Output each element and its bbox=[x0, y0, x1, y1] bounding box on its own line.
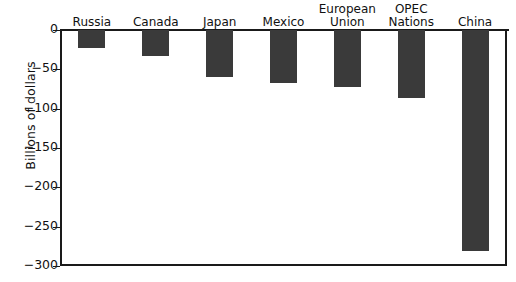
bar bbox=[142, 30, 169, 56]
bar bbox=[78, 30, 105, 48]
bars-layer bbox=[0, 0, 516, 282]
category-label: China bbox=[430, 16, 516, 29]
bar bbox=[334, 30, 361, 87]
bar bbox=[462, 30, 489, 251]
bar bbox=[270, 30, 297, 83]
bar-chart: Billions of dollars 0−50−100−150−200−250… bbox=[0, 0, 516, 282]
category-labels: RussiaCanadaJapanMexicoEuropean UnionOPE… bbox=[0, 0, 516, 30]
bar bbox=[398, 30, 425, 98]
bar bbox=[206, 30, 233, 77]
